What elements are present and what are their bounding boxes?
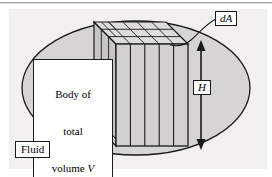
da-label: dA — [215, 11, 237, 26]
body-volume-line-2: total — [36, 125, 110, 137]
figure-container: Body of total volume V Fluid dA H — [0, 0, 272, 177]
body-volume-symbol: V — [88, 162, 95, 174]
body-volume-line-3: volume V — [36, 162, 110, 174]
top-rule — [0, 2, 272, 3]
prism-front-face — [116, 44, 188, 146]
height-label: H — [193, 80, 211, 95]
body-volume-line-3-text: volume — [52, 162, 88, 174]
fluid-label: Fluid — [15, 141, 50, 158]
body-volume-label: Body of total volume V — [33, 59, 113, 177]
body-volume-line-1: Body of — [36, 88, 110, 100]
